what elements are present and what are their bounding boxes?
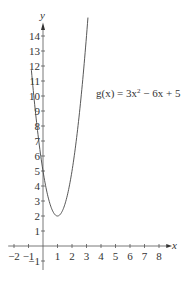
- x-tick-label: −2: [8, 250, 20, 262]
- x-tick-label: 1: [55, 250, 61, 262]
- x-tick-label: 4: [98, 250, 104, 262]
- x-tick-label: 5: [113, 250, 119, 262]
- y-tick-label: 6: [35, 150, 41, 162]
- y-tick-label: 1: [35, 225, 41, 237]
- x-tick-label: 8: [156, 250, 162, 262]
- y-tick-label: 3: [35, 195, 41, 207]
- y-tick-label: 11: [29, 75, 40, 87]
- y-axis-arrow-icon: [41, 23, 45, 31]
- x-axis-label: x: [171, 239, 177, 251]
- x-tick-label: 7: [142, 250, 148, 262]
- y-axis-label: y: [39, 9, 45, 21]
- y-tick-label: 14: [29, 30, 41, 42]
- y-tick-label: 4: [35, 180, 41, 192]
- y-tick-label: 5: [35, 165, 41, 177]
- y-tick-label: −1: [28, 255, 40, 267]
- y-tick-label: 13: [29, 45, 41, 57]
- x-tick-label: 3: [84, 250, 90, 262]
- y-tick-label: 10: [29, 90, 41, 102]
- equation-label: g(x) = 3x2 − 6x + 5: [96, 87, 181, 100]
- x-tick-label: 6: [127, 250, 133, 262]
- x-tick-label: 2: [69, 250, 75, 262]
- y-tick-label: 12: [29, 60, 40, 72]
- axis-ticks: −2−112345678−11234567891011121314: [8, 30, 162, 267]
- function-graph: −2−112345678−11234567891011121314 x y g(…: [0, 0, 182, 282]
- y-tick-label: 2: [35, 210, 41, 222]
